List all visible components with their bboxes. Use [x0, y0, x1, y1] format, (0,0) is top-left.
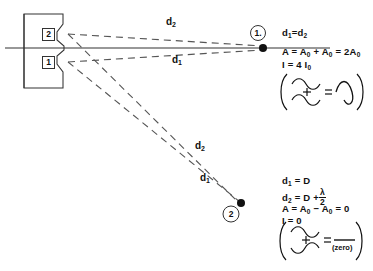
point-1-dot [259, 44, 267, 52]
wave2-top-sine [291, 227, 319, 238]
point2-eq-amplitude: A = A0 − A0 = 0 [282, 204, 350, 215]
point1-eq-amplitude: A = A0 + A0 = 2A0 [282, 47, 360, 58]
wave1-bottom-sine [292, 95, 320, 106]
ray-d1-to-point2 [68, 62, 240, 202]
wave2-zero-caption: (zero) [332, 244, 352, 252]
wave1-right-paren [357, 74, 363, 110]
wave1-left-paren [281, 74, 287, 110]
interference-diagram: 2 1 1. 2 d2 d1 d2 d1 d1=d2 A = A0 + A0 =… [0, 0, 373, 271]
ray-label-d1-lower: d1 [200, 173, 210, 184]
ray-label-d1-upper: d1 [172, 55, 182, 66]
point2-eq-d1: d1 = D [282, 176, 310, 187]
ray-d1-to-point1 [68, 50, 262, 62]
wave2-bottom-sine [291, 243, 319, 254]
wave2-left-paren [280, 222, 286, 260]
barrier-shape [24, 14, 64, 88]
ray-d2-to-point2 [68, 34, 236, 200]
slit-label-1: 1 [42, 56, 55, 69]
slit-label-2: 2 [42, 28, 55, 41]
wave2-right-paren [356, 222, 362, 260]
ray-d2-to-point1 [68, 34, 262, 46]
point2-eq-intensity: I = 0 [282, 216, 302, 226]
wave1-result-sine [336, 82, 353, 105]
ray-label-d2-upper: d2 [166, 17, 176, 28]
point-2-label: 2 [224, 208, 238, 222]
point-1-label: 1. [251, 27, 265, 41]
diagram-canvas [0, 0, 373, 271]
wave1-top-sine [292, 79, 320, 90]
point1-eq-intensity: I = 4 I0 [282, 60, 311, 71]
point-2-dot [237, 199, 245, 207]
point1-eq-distances: d1=d2 [282, 28, 307, 39]
ray-label-d2-lower: d2 [195, 141, 205, 152]
